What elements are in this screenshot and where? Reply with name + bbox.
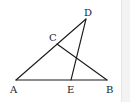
segment-cb [57, 44, 107, 80]
segment-de [71, 19, 86, 80]
label-point-b: B [106, 84, 113, 95]
geometry-figure: A B C D E [0, 0, 130, 102]
label-point-a: A [9, 84, 18, 95]
label-point-c: C [49, 32, 57, 43]
label-point-e: E [67, 84, 74, 95]
label-point-d: D [84, 7, 92, 18]
diagram-canvas: A B C D E [0, 0, 130, 102]
segment-ad [16, 19, 86, 80]
